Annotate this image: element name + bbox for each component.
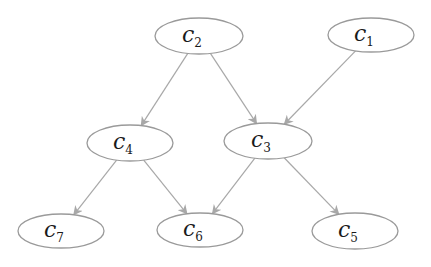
node-c1: c1 <box>328 18 414 52</box>
arrow-line <box>284 51 355 124</box>
edge-c3-to-c5 <box>284 158 339 215</box>
arrow-line <box>74 160 117 215</box>
node-c6: c6 <box>157 213 243 247</box>
node-c7: c7 <box>18 214 104 248</box>
edge-c4-to-c6 <box>144 160 187 214</box>
arrow-line <box>144 160 187 214</box>
edge-c2-to-c3 <box>210 53 256 123</box>
node-c2: c2 <box>155 18 243 54</box>
edge-c1-to-c3 <box>284 51 355 124</box>
edge-c3-to-c6 <box>212 158 254 214</box>
edge-c4-to-c7 <box>74 160 117 215</box>
edge-c2-to-c4 <box>141 53 188 125</box>
arrow-line <box>212 158 254 214</box>
arrow-line <box>141 53 188 125</box>
arrow-line <box>284 158 339 215</box>
dependency-graph: c2c1c4c3c7c6c5 <box>0 0 431 267</box>
arrow-line <box>210 53 256 123</box>
node-c3: c3 <box>224 123 312 159</box>
node-c4: c4 <box>87 125 173 161</box>
node-c5: c5 <box>312 213 398 249</box>
